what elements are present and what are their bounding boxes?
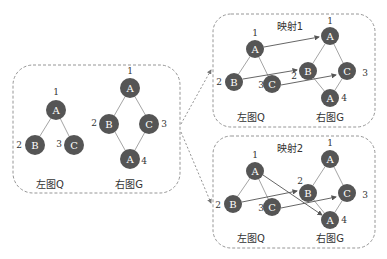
svg-text:B: B bbox=[229, 199, 236, 210]
svg-text:C: C bbox=[268, 79, 276, 90]
svg-text:C: C bbox=[343, 188, 351, 199]
svg-text:4: 4 bbox=[341, 215, 347, 225]
svg-text:1: 1 bbox=[327, 16, 333, 26]
diagram-canvas: A 1 B 2 C 3 A 1 B 2 C 3 A 4 左图Q 右图G 映射1 bbox=[0, 0, 387, 259]
m1-q-node-b2: B 2 bbox=[216, 73, 243, 91]
m1-g-node-a4: A 4 bbox=[321, 89, 347, 107]
m1-arrow-a bbox=[264, 37, 319, 47]
left-g-node-a4: A 4 bbox=[120, 149, 147, 169]
m2-q-node-c3: C 3 bbox=[258, 198, 281, 216]
m2-g-node-a4: A 4 bbox=[321, 211, 347, 229]
svg-text:A: A bbox=[250, 44, 259, 55]
left-g-caption: 右图G bbox=[115, 178, 143, 190]
left-q-caption: 左图Q bbox=[36, 178, 64, 190]
left-q-node-a1: A 1 bbox=[46, 87, 66, 120]
m2-q-caption: 左图Q bbox=[237, 232, 265, 244]
svg-text:B: B bbox=[105, 119, 112, 130]
svg-text:2: 2 bbox=[216, 77, 222, 87]
m1-q-node-c3: C 3 bbox=[258, 75, 281, 93]
svg-text:1: 1 bbox=[127, 66, 133, 76]
svg-text:2: 2 bbox=[297, 176, 303, 186]
svg-text:B: B bbox=[304, 188, 311, 199]
m2-g-node-b2: B 2 bbox=[297, 176, 317, 202]
m2-g-caption: 右图G bbox=[316, 232, 344, 244]
svg-text:A: A bbox=[325, 215, 334, 226]
svg-text:C: C bbox=[70, 140, 78, 151]
m1-g-node-a1: A 1 bbox=[321, 16, 339, 45]
m1-g-node-b2: B 2 bbox=[291, 62, 317, 81]
svg-text:3: 3 bbox=[161, 119, 167, 129]
left-g-node-c3: C 3 bbox=[139, 114, 167, 134]
svg-text:2: 2 bbox=[291, 71, 297, 81]
svg-text:3: 3 bbox=[362, 68, 368, 78]
svg-text:A: A bbox=[325, 154, 334, 165]
m2-q-node-b2: B 2 bbox=[215, 195, 242, 213]
m1-q-node-a1: A 1 bbox=[246, 28, 264, 58]
svg-text:1: 1 bbox=[252, 28, 258, 38]
left-g-node-a1: A 1 bbox=[120, 66, 140, 98]
svg-text:C: C bbox=[268, 202, 276, 213]
svg-text:1: 1 bbox=[252, 150, 258, 160]
svg-text:C: C bbox=[145, 119, 153, 130]
m2-g-node-c3: C 3 bbox=[338, 184, 368, 202]
mapping1-title: 映射1 bbox=[277, 21, 303, 32]
svg-text:B: B bbox=[304, 66, 311, 77]
svg-text:B: B bbox=[31, 140, 38, 151]
connector-to-mapping2 bbox=[181, 132, 211, 203]
m2-g-node-a1: A 1 bbox=[321, 138, 339, 168]
svg-text:A: A bbox=[125, 83, 134, 94]
svg-text:3: 3 bbox=[56, 139, 62, 149]
svg-text:1: 1 bbox=[53, 87, 59, 97]
svg-text:4: 4 bbox=[141, 156, 147, 166]
connector-to-mapping1 bbox=[181, 70, 211, 124]
svg-text:A: A bbox=[250, 166, 259, 177]
svg-text:3: 3 bbox=[258, 80, 264, 90]
svg-text:C: C bbox=[343, 66, 351, 77]
left-q-node-c3: C 3 bbox=[56, 135, 84, 155]
svg-text:B: B bbox=[230, 77, 237, 88]
svg-text:A: A bbox=[325, 31, 334, 42]
svg-text:2: 2 bbox=[215, 200, 221, 210]
left-q-node-b2: B 2 bbox=[16, 135, 45, 155]
m2-q-node-a1: A 1 bbox=[246, 150, 264, 180]
svg-text:3: 3 bbox=[362, 190, 368, 200]
svg-text:A: A bbox=[51, 105, 60, 116]
svg-text:1: 1 bbox=[327, 138, 333, 148]
svg-text:2: 2 bbox=[91, 118, 97, 128]
svg-text:A: A bbox=[125, 154, 134, 165]
svg-text:4: 4 bbox=[341, 93, 347, 103]
mapping2-title: 映射2 bbox=[277, 143, 303, 154]
svg-text:2: 2 bbox=[16, 140, 22, 150]
left-g-node-b2: B 2 bbox=[91, 114, 119, 134]
m1-g-node-c3: C 3 bbox=[338, 62, 368, 80]
svg-text:A: A bbox=[325, 93, 334, 104]
m1-q-caption: 左图Q bbox=[237, 111, 265, 123]
svg-text:3: 3 bbox=[258, 203, 264, 213]
m1-g-caption: 右图G bbox=[316, 111, 344, 123]
